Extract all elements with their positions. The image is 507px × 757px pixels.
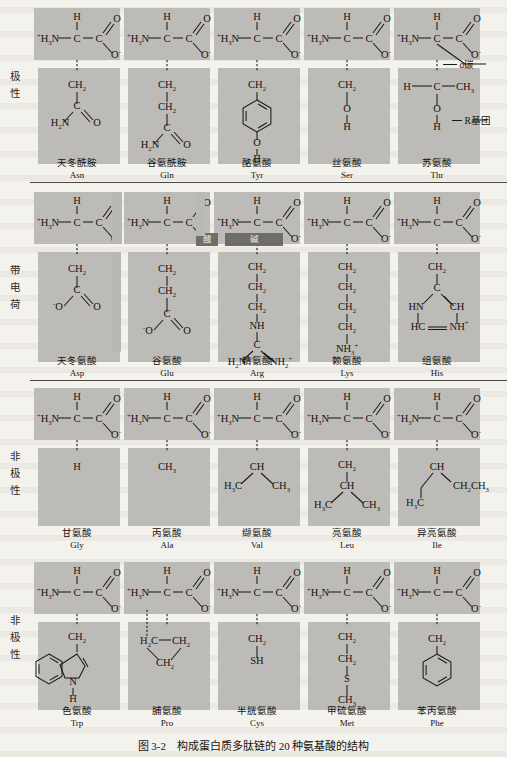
svg-text:+H3N: +H3N (307, 32, 330, 46)
svg-text:O: O (203, 393, 211, 404)
svg-text:H: H (253, 195, 261, 206)
svg-text:O: O (383, 567, 391, 578)
svg-text:C: C (185, 217, 192, 228)
svg-text:CH2: CH2 (248, 281, 266, 294)
backbone-structure: +H3NCHCOO- (304, 562, 390, 614)
svg-text:C: C (455, 217, 462, 228)
svg-text:O-: O- (381, 602, 391, 614)
backbone-structure: +H3NCHCOO- (304, 192, 390, 244)
svg-text:CH2: CH2 (158, 101, 176, 114)
name-cn: 甲硫氨酸 (300, 706, 394, 718)
svg-text:O: O (203, 567, 211, 578)
amino-acid-name-ile: 异亮氨酸 Ile (390, 528, 484, 551)
svg-text:NH+: NH+ (450, 319, 469, 332)
svg-text:CH2: CH2 (428, 261, 446, 274)
svg-text:O: O (183, 325, 191, 336)
amino-acid-name-phe: 苯丙氨酸 Phe (390, 706, 484, 729)
svg-text:C: C (433, 587, 440, 598)
svg-text:+H3N: +H3N (37, 216, 60, 230)
amino-acid-name-tyr: 酪氨酸 Tyr (210, 158, 304, 181)
svg-text:C: C (365, 217, 372, 228)
svg-text:C: C (253, 413, 260, 424)
backbone-structure: +H3NCHCOO- (214, 8, 300, 60)
name-abbr: Asp (30, 368, 124, 380)
backbone-structure: +H3NCHCOO- (214, 562, 300, 614)
svg-text:C: C (95, 587, 102, 598)
svg-text:C: C (253, 339, 260, 350)
svg-text:CH2: CH2 (338, 321, 356, 334)
name-abbr: Arg (210, 368, 304, 380)
group-label-char: 电 (4, 279, 26, 296)
backbone-structure: +H3NCHCOO- (304, 388, 390, 440)
name-cn: 丙氨酸 (120, 528, 214, 540)
group-label-char: 性 (4, 85, 26, 102)
group-label-char: 荷 (4, 296, 26, 313)
sub-label-base: 碱 (225, 233, 283, 246)
svg-text:+H3N: +H3N (127, 32, 150, 46)
group-label-char: 极 (4, 465, 26, 482)
svg-text:CH2: CH2 (338, 79, 356, 92)
svg-text:H3C: H3C (314, 499, 332, 512)
svg-text:NH3+: NH3+ (336, 342, 358, 356)
amino-acid-name-gln: 谷氨酰胺 Gln (120, 158, 214, 181)
svg-text:C: C (455, 413, 462, 424)
svg-text:NH: NH (249, 320, 265, 331)
name-cn: 组氨酸 (390, 356, 484, 368)
svg-text:SH: SH (250, 655, 264, 666)
svg-text:C: C (95, 217, 102, 228)
side-chain-structure: CH2OH (214, 60, 300, 166)
svg-text:C: C (73, 217, 80, 228)
svg-text:O-: O- (471, 602, 481, 614)
amino-acid-name-met: 甲硫氨酸 Met (300, 706, 394, 729)
svg-text:C: C (95, 33, 102, 44)
name-cn: 丝氨酸 (300, 158, 394, 170)
svg-text:C: C (275, 413, 282, 424)
amino-acid-name-asp: 天冬氨酸 Asp (30, 356, 124, 379)
svg-text:C: C (73, 413, 80, 424)
amino-acid-name-trp: 色氨酸 Trp (30, 706, 124, 729)
svg-text:C: C (433, 217, 440, 228)
svg-text:+H3N: +H3N (397, 586, 420, 600)
svg-text:+H3N: +H3N (127, 586, 150, 600)
svg-text:O: O (473, 197, 481, 208)
svg-text:C: C (185, 413, 192, 424)
svg-text:O-: O- (291, 602, 301, 614)
svg-text:CH3: CH3 (338, 694, 357, 707)
backbone-structure: +H3NCHCOO- (304, 8, 390, 60)
svg-text:H: H (253, 391, 261, 402)
svg-text:C: C (163, 413, 170, 424)
amino-acid-name-ala: 丙氨酸 Ala (120, 528, 214, 551)
name-cn: 半胱氨酸 (210, 706, 304, 718)
name-abbr: Ser (300, 170, 394, 182)
name-cn: 苯丙氨酸 (390, 706, 484, 718)
svg-text:C: C (253, 33, 260, 44)
name-abbr: Glu (120, 368, 214, 380)
side-chain-structure: CH2CH2CH2CH2NH3+ (304, 244, 390, 364)
spine-shadow (196, 192, 205, 236)
svg-text:CH2: CH2 (248, 633, 266, 646)
svg-text:C: C (343, 587, 350, 598)
svg-text:H: H (163, 565, 171, 576)
side-chain-structure: CH2CHH3CCH3 (304, 440, 390, 528)
svg-text:H: H (73, 195, 81, 206)
svg-text:H3C: H3C (224, 480, 242, 493)
side-chain-structure: CH2CH2SCH3 (304, 614, 390, 712)
amino-acid-name-his: 组氨酸 His (390, 356, 484, 379)
svg-text:O: O (473, 567, 481, 578)
name-abbr: Leu (300, 540, 394, 552)
backbone-structure: +H3NCHCOO- (34, 192, 120, 244)
name-abbr: Met (300, 718, 394, 730)
svg-text:+H3N: +H3N (217, 216, 240, 230)
name-cn: 精氨酸 (210, 356, 304, 368)
svg-text:C: C (433, 282, 440, 293)
svg-text:O: O (293, 13, 301, 24)
svg-text:-O: -O (143, 324, 153, 336)
svg-text:O-: O- (201, 48, 211, 60)
amino-acid-name-arg: 精氨酸 Arg (210, 356, 304, 379)
amino-acid-name-thr: 苏氨酸 Thr (390, 158, 484, 181)
svg-text:O-: O- (111, 602, 121, 614)
svg-text:CH: CH (250, 461, 265, 472)
svg-text:O: O (253, 137, 261, 148)
svg-text:O-: O- (201, 602, 211, 614)
svg-text:H: H (343, 391, 351, 402)
